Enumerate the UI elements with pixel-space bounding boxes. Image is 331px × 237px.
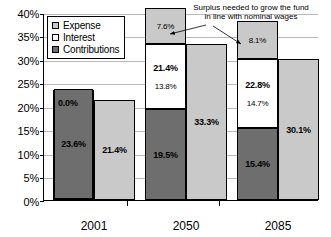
x-axis-label-2085: 2085 [237, 219, 319, 233]
y-tick-40 [40, 14, 44, 15]
segment-label-2050-contributions: 19.5% [153, 150, 178, 160]
legend-swatch-expense-icon [52, 22, 59, 29]
y-tick-0 [40, 201, 44, 202]
y-axis-label-20: 20% [3, 102, 39, 114]
segment-2085-surplus: 8.1% [237, 21, 278, 59]
y-tick-30 [40, 61, 44, 62]
legend-swatch-contributions-icon [52, 46, 59, 53]
x-axis-label-2050: 2050 [145, 219, 227, 233]
y-axis-label-15: 15% [3, 125, 39, 137]
y-axis-label-0: 0% [3, 196, 39, 208]
stack-total-label-2085: 22.8% [245, 80, 270, 90]
segment-label-2085-surplus: 8.1% [249, 36, 266, 45]
chart-container: 0% 5% 10% 15% 20% 25% 30% 35% 40% [0, 0, 331, 237]
annotation-line-2: in line with nominal wages [178, 12, 324, 21]
segment-2085-expense: 30.1% [279, 60, 318, 199]
y-axis-label-30: 30% [3, 55, 39, 67]
x-axis-label-2001: 2001 [53, 219, 135, 233]
segment-2001-expense: 21.4% [95, 101, 134, 199]
legend-item-contributions: Contributions [52, 43, 119, 55]
segment-label-2050-surplus: 7.6% [157, 22, 174, 31]
segment-label-2001-expense: 21.4% [102, 145, 127, 155]
legend-item-expense: Expense [52, 19, 119, 31]
y-axis-label-10: 10% [3, 149, 39, 161]
stack-total-label-2050: 21.4% [153, 63, 178, 73]
segment-2085-contributions: 15.4% [237, 128, 278, 200]
x-tick-sep-1 [127, 201, 128, 206]
y-tick-5 [40, 178, 44, 179]
y-tick-10 [40, 155, 44, 156]
legend-label-expense: Expense [63, 20, 101, 31]
stack-total-label-2001: 0.0% [58, 98, 78, 108]
x-tick-sep-2 [219, 201, 220, 206]
segment-label-2085-contributions: 15.4% [245, 159, 270, 169]
segment-label-2085-expense: 30.1% [286, 125, 311, 135]
segment-label-2001-contributions: 23.6% [61, 139, 86, 149]
bar-2001-expense: 21.4% [94, 100, 135, 200]
legend-item-interest: Interest [52, 31, 119, 43]
legend-swatch-interest-icon [52, 34, 59, 41]
y-axis-label-25: 25% [3, 78, 39, 90]
segment-2050-contributions: 19.5% [145, 109, 186, 200]
y-tick-20 [40, 108, 44, 109]
segment-label-2050-expense: 33.3% [194, 117, 219, 127]
y-axis-label-35: 35% [3, 31, 39, 43]
bar-2050-expense: 33.3% [186, 44, 227, 200]
y-axis-label-40: 40% [3, 8, 39, 20]
legend-label-contributions: Contributions [63, 44, 119, 55]
segment-label-2050-interest: 13.8% [155, 82, 177, 91]
bar-2085-expense: 30.1% [278, 59, 319, 200]
segment-2050-expense: 33.3% [187, 45, 226, 199]
segment-2085-interest: 22.8% 14.7% [237, 59, 278, 128]
segment-2050-interest: 21.4% 13.8% [145, 44, 186, 109]
y-tick-15 [40, 131, 44, 132]
y-tick-25 [40, 84, 44, 85]
bar-2050-income: 19.5% 21.4% 13.8% 7.6% [145, 8, 186, 200]
y-axis-label-5: 5% [3, 172, 39, 184]
chart-legend: Expense Interest Contributions [47, 16, 125, 59]
segment-label-2085-interest: 14.7% [247, 99, 269, 108]
y-tick-35 [40, 37, 44, 38]
bar-2085-income: 15.4% 22.8% 14.7% 8.1% [237, 21, 278, 200]
annotation-text: Surplus needed to grow the fund in line … [178, 3, 324, 21]
annotation-line-1: Surplus needed to grow the fund [178, 3, 324, 12]
legend-label-interest: Interest [63, 32, 95, 43]
